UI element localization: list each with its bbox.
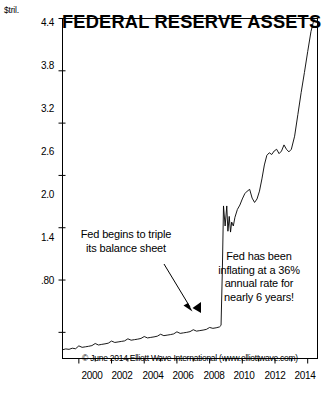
annotation-arrow-left [164,264,193,312]
annotation-arrow-right [193,302,202,313]
x-axis-ticks [79,359,308,364]
data-series-line [63,19,315,350]
plot-area [0,0,327,402]
chart-figure: $tril. FEDERAL RESERVE ASSETS 4.4 3.8 3.… [0,0,327,402]
